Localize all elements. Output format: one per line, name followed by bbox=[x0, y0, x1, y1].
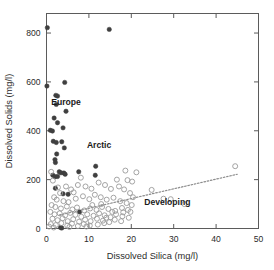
data-point-open bbox=[75, 183, 80, 188]
data-point-open bbox=[108, 186, 113, 191]
data-point-open bbox=[110, 209, 115, 214]
data-point-open bbox=[96, 180, 101, 185]
data-point-filled bbox=[55, 121, 59, 125]
data-point-filled bbox=[107, 27, 111, 31]
data-point-open bbox=[87, 197, 92, 202]
data-point-open bbox=[58, 206, 63, 211]
data-point-open bbox=[112, 217, 117, 222]
y-tick-label: 400 bbox=[26, 126, 41, 136]
plot-frame bbox=[47, 14, 259, 229]
data-point-open bbox=[78, 175, 83, 180]
data-point-open bbox=[117, 184, 122, 189]
x-tick-label: 50 bbox=[254, 234, 264, 244]
data-point-filled bbox=[77, 210, 81, 214]
data-point-open bbox=[91, 213, 96, 218]
y-axis-label: Dissolved Solids (mg/l) bbox=[4, 74, 14, 169]
data-point-open bbox=[124, 201, 129, 206]
data-point-filled bbox=[50, 129, 54, 133]
annotation-europe: Europe bbox=[51, 97, 81, 107]
annotation-arctic: Arctic bbox=[87, 140, 112, 150]
data-point-open bbox=[149, 187, 154, 192]
data-point-open bbox=[103, 183, 108, 188]
data-point-open bbox=[97, 211, 102, 216]
data-point-filled bbox=[63, 172, 67, 176]
data-point-filled bbox=[60, 226, 64, 230]
data-point-filled bbox=[54, 152, 58, 156]
series-developing bbox=[47, 164, 238, 230]
data-point-open bbox=[111, 195, 116, 200]
data-point-open bbox=[50, 216, 55, 221]
data-point-open bbox=[104, 197, 109, 202]
data-point-open bbox=[94, 216, 99, 221]
data-point-open bbox=[129, 203, 134, 208]
data-point-open bbox=[64, 184, 69, 189]
data-point-open bbox=[80, 194, 85, 199]
data-point-open bbox=[89, 186, 94, 191]
x-tick-label: 0 bbox=[44, 234, 49, 244]
data-point-open bbox=[64, 204, 69, 209]
data-point-open bbox=[92, 192, 97, 197]
data-point-filled bbox=[62, 146, 66, 150]
data-point-open bbox=[122, 187, 127, 192]
data-point-filled bbox=[66, 192, 70, 196]
data-point-open bbox=[233, 164, 238, 169]
data-point-open bbox=[85, 212, 90, 217]
data-point-open bbox=[98, 195, 103, 200]
y-tick-label: 600 bbox=[26, 77, 41, 87]
annotation-developing: Developing bbox=[144, 197, 190, 207]
data-point-open bbox=[113, 208, 118, 213]
y-tick-label: 200 bbox=[26, 175, 41, 185]
data-point-filled bbox=[93, 173, 97, 177]
data-point-filled bbox=[93, 164, 97, 168]
data-point-open bbox=[126, 215, 131, 220]
data-point-open bbox=[83, 184, 88, 189]
data-point-filled bbox=[52, 116, 56, 120]
data-point-filled bbox=[63, 80, 67, 84]
data-point-open bbox=[119, 219, 124, 224]
data-point-filled bbox=[55, 174, 59, 178]
data-point-open bbox=[73, 196, 78, 201]
data-point-filled bbox=[60, 140, 64, 144]
data-point-filled bbox=[45, 25, 49, 29]
x-axis: 01020304050 bbox=[44, 14, 263, 244]
x-tick-label: 30 bbox=[169, 234, 179, 244]
data-point-filled bbox=[64, 109, 68, 113]
x-tick-label: 40 bbox=[211, 234, 221, 244]
y-axis: 0200400600800 bbox=[26, 28, 258, 233]
data-point-filled bbox=[54, 140, 58, 144]
data-point-filled bbox=[61, 126, 65, 130]
x-tick-label: 20 bbox=[127, 234, 137, 244]
data-point-open bbox=[59, 221, 64, 226]
data-point-open bbox=[114, 177, 119, 182]
data-point-open bbox=[95, 222, 100, 227]
data-point-open bbox=[123, 168, 128, 173]
data-point-open bbox=[50, 178, 55, 183]
data-point-open bbox=[61, 199, 66, 204]
scatter-chart-figure: 010203040500200400600800Dissolved Silica… bbox=[0, 0, 274, 270]
data-point-filled bbox=[53, 160, 57, 164]
data-point-open bbox=[134, 170, 139, 175]
data-point-filled bbox=[45, 84, 49, 88]
data-point-open bbox=[94, 207, 99, 212]
x-axis-label: Dissolved Silica (mg/l) bbox=[107, 251, 198, 261]
data-point-open bbox=[130, 179, 135, 184]
scatter-plot-canvas: 010203040500200400600800Dissolved Silica… bbox=[0, 0, 274, 270]
y-tick-label: 0 bbox=[36, 224, 41, 234]
data-point-filled bbox=[77, 170, 81, 174]
x-tick-label: 10 bbox=[84, 234, 94, 244]
data-point-open bbox=[75, 205, 80, 210]
y-tick-label: 800 bbox=[26, 28, 41, 38]
